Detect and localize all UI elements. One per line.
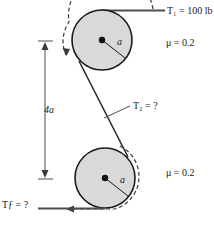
- tension-middle-label: T₂ = ?: [133, 100, 158, 111]
- friction-coefficient-top-label: μ = 0.2: [166, 37, 195, 48]
- center-distance-label: 4a: [44, 104, 54, 115]
- tension-top-label: T₁ = 100 lb: [167, 5, 213, 16]
- friction-coefficient-bottom-label: μ = 0.2: [166, 167, 195, 178]
- belt-direction-arrow-upper: [63, 48, 71, 56]
- lower-pulley-center: [102, 175, 108, 181]
- lower-pulley-radius-label: a: [120, 174, 125, 185]
- tension-bottom-label: Tƒ = ?: [2, 199, 28, 210]
- belt-friction-diagram: T₁ = 100 lb μ = 0.2 T₂ = ? μ = 0.2 Tƒ = …: [0, 0, 214, 233]
- upper-pulley-radius-label: a: [117, 36, 122, 47]
- diagram-canvas: [0, 0, 214, 233]
- t2-leader-line: [104, 106, 130, 118]
- dimension-arrow-bottom: [42, 170, 49, 178]
- upper-pulley-center: [99, 37, 105, 43]
- belt-segment-diagonal: [79, 61, 128, 157]
- dimension-arrow-top: [42, 42, 49, 50]
